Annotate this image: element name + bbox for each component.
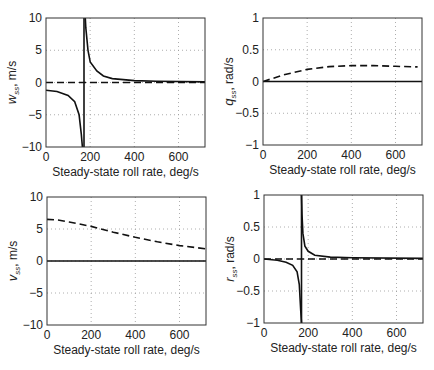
y-tick-label: 1 [253,188,260,202]
y-tick-label: 0.5 [243,220,260,234]
x-tick-label: 400 [342,326,362,340]
series-dashed [47,219,206,248]
y-tick-label: −0.5 [236,284,260,298]
y-axis-label: wss, m/s [4,61,21,104]
panel-top-left: 02004006001050−5−10Steady-state roll rat… [4,11,205,179]
panel-bottom-left: 02004006001050−5−10Steady-state roll rat… [5,190,206,357]
y-tick-label: 10 [29,11,43,25]
y-tick-label: −1 [246,316,260,330]
panel-top-right: 020040060010.50−0.5−1Steady-state roll r… [221,11,422,177]
x-tick-label: 600 [385,148,405,162]
x-tick-label: 0 [44,328,51,342]
y-tick-label: 1 [252,11,259,25]
x-tick-label: 600 [169,328,189,342]
y-tick-label: 0 [253,252,260,266]
y-tick-label: 10 [30,190,44,204]
y-tick-label: 0 [36,254,43,268]
figure: 02004006001050−5−10Steady-state roll rat… [0,0,434,370]
series-solid [46,90,84,147]
y-axis-label: vss, m/s [5,241,22,282]
y-tick-label: −1 [245,138,259,152]
x-tick-label: 400 [124,150,144,164]
series-solid [264,259,302,323]
x-tick-label: 200 [80,150,100,164]
series-solid-branch2 [85,18,205,82]
series-dashed [263,66,418,82]
x-tick-label: 200 [297,148,317,162]
x-tick-label: 600 [168,150,188,164]
x-axis-label: Steady-state roll rate, deg/s [53,343,200,357]
panel-bottom-right: 020040060010.50−0.5−1Steady-state roll r… [222,188,423,355]
x-tick-label: 600 [386,326,406,340]
y-tick-label: −5 [28,108,42,122]
y-tick-label: 5 [36,222,43,236]
x-axis-label: Steady-state roll rate, deg/s [52,165,199,179]
y-tick-label: −10 [23,318,44,332]
x-tick-label: 400 [125,328,145,342]
x-tick-label: 200 [81,328,101,342]
x-tick-label: 200 [298,326,318,340]
y-tick-label: 0.5 [242,43,259,57]
x-tick-label: 400 [341,148,361,162]
y-tick-label: −10 [22,140,43,154]
y-tick-label: 0 [35,76,42,90]
y-axis-label: qss, rad/s [221,57,238,106]
x-axis-label: Steady-state roll rate, deg/s [270,341,417,355]
y-axis-label: rss, rad/s [222,236,239,282]
x-tick-label: 0 [43,150,50,164]
y-tick-label: 0 [252,75,259,89]
x-tick-label: 0 [260,148,267,162]
x-tick-label: 0 [261,326,268,340]
x-axis-label: Steady-state roll rate, deg/s [269,163,416,177]
y-tick-label: −5 [29,286,43,300]
y-tick-label: −0.5 [235,106,259,120]
y-tick-label: 5 [35,43,42,57]
